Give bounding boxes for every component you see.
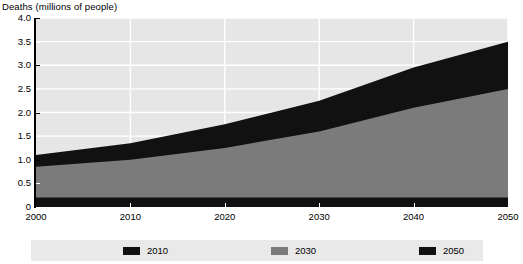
x-tick-label: 2000 bbox=[13, 211, 59, 222]
y-tick-mark bbox=[36, 113, 40, 114]
y-tick-mark bbox=[36, 183, 40, 184]
legend-item[interactable]: 2050 bbox=[419, 244, 464, 257]
legend-swatch bbox=[419, 247, 436, 255]
area-band-2010 bbox=[36, 198, 508, 207]
legend-item[interactable]: 2010 bbox=[123, 244, 168, 257]
legend-swatch bbox=[271, 247, 288, 255]
area-bands bbox=[36, 42, 508, 207]
y-tick-label: 4.0 bbox=[3, 13, 31, 23]
x-tick-label: 2010 bbox=[107, 211, 153, 222]
x-tick-mark bbox=[130, 203, 131, 207]
legend-label: 2010 bbox=[147, 245, 168, 256]
x-tick-mark bbox=[319, 203, 320, 207]
chart-legend: 201020302050 bbox=[31, 240, 483, 261]
x-tick-mark bbox=[225, 203, 226, 207]
legend-swatch bbox=[123, 247, 140, 255]
legend-item[interactable]: 2030 bbox=[271, 244, 316, 257]
y-tick-mark bbox=[36, 18, 40, 19]
plot-area bbox=[36, 18, 508, 207]
y-tick-label: 3.0 bbox=[3, 60, 31, 70]
y-tick-mark bbox=[36, 160, 40, 161]
x-tick-mark bbox=[414, 203, 415, 207]
legend-label: 2030 bbox=[295, 245, 316, 256]
x-tick-label: 2020 bbox=[202, 211, 248, 222]
legend-label: 2050 bbox=[443, 245, 464, 256]
y-tick-label: 2.5 bbox=[3, 84, 31, 94]
x-tick-label: 2050 bbox=[485, 211, 523, 222]
y-tick-mark bbox=[36, 136, 40, 137]
y-tick-mark bbox=[36, 89, 40, 90]
y-tick-label: 1.0 bbox=[3, 155, 31, 165]
y-tick-mark bbox=[36, 42, 40, 43]
stacked-area-plot bbox=[36, 18, 508, 207]
x-tick-label: 2040 bbox=[391, 211, 437, 222]
y-tick-label: 0.5 bbox=[3, 178, 31, 188]
x-tick-label: 2030 bbox=[296, 211, 342, 222]
y-axis-tick-labels: 00.51.01.52.02.53.03.54.0 bbox=[0, 0, 31, 264]
y-tick-label: 3.5 bbox=[3, 37, 31, 47]
y-tick-label: 2.0 bbox=[3, 108, 31, 118]
y-tick-mark bbox=[36, 65, 40, 66]
y-tick-label: 1.5 bbox=[3, 131, 31, 141]
